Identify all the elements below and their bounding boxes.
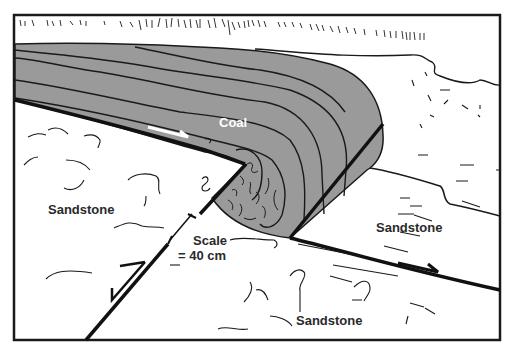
label-sandstone-bottom: Sandstone [296,314,362,327]
label-coal: Coal [219,116,247,129]
label-sandstone-left: Sandstone [48,203,114,216]
label-scale-line1: Scale [193,234,227,247]
geologic-diagram [0,0,515,358]
label-scale-line2: = 40 cm [178,249,226,262]
label-sandstone-right: Sandstone [376,221,442,234]
